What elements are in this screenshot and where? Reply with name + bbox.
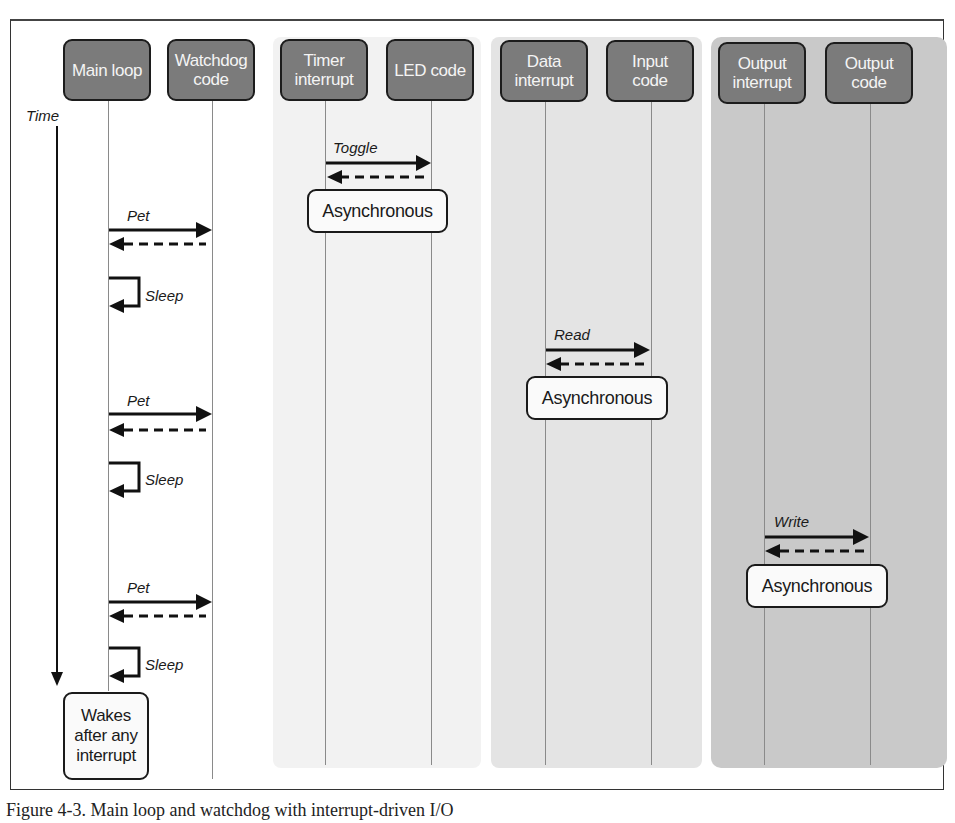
figure-caption: Figure 4-3. Main loop and watchdog with … <box>6 800 453 821</box>
sleep-self-arrow-icon <box>109 278 139 313</box>
pet-arrow-icon <box>109 594 212 610</box>
message-label-sleep: Sleep <box>145 656 183 673</box>
message-label-toggle: Toggle <box>333 139 378 156</box>
sleep-self-arrow-icon <box>109 648 139 683</box>
note-label-line3: interrupt <box>76 746 136 766</box>
note-label: Asynchronous <box>542 388 652 409</box>
write-return-arrow-icon <box>765 544 864 558</box>
pet-arrow-icon <box>109 222 212 238</box>
message-label-read: Read <box>554 326 590 343</box>
note-wakes-after-interrupt: Wakes after any interrupt <box>63 692 149 780</box>
note-label-line2: after any <box>74 726 137 746</box>
time-arrow-icon <box>51 126 63 686</box>
pet-return-arrow-icon <box>109 423 206 437</box>
pet-return-arrow-icon <box>109 609 206 623</box>
write-arrow-icon <box>765 529 869 545</box>
sleep-self-arrow-icon <box>109 463 139 498</box>
note-label: Asynchronous <box>322 201 432 222</box>
toggle-arrow-icon <box>326 155 431 171</box>
message-label-pet: Pet <box>127 207 150 224</box>
read-return-arrow-icon <box>546 357 645 371</box>
message-label-write: Write <box>774 513 809 530</box>
note-asynchronous-output: Asynchronous <box>746 564 888 608</box>
message-label-pet: Pet <box>127 392 150 409</box>
note-label: Asynchronous <box>762 576 872 597</box>
note-asynchronous-timer: Asynchronous <box>307 189 448 233</box>
toggle-return-arrow-icon <box>327 170 428 184</box>
note-asynchronous-data: Asynchronous <box>526 376 668 420</box>
message-label-pet: Pet <box>127 579 150 596</box>
message-label-sleep: Sleep <box>145 287 183 304</box>
message-label-sleep: Sleep <box>145 471 183 488</box>
pet-return-arrow-icon <box>109 237 206 251</box>
note-label-line1: Wakes <box>81 706 131 726</box>
pet-arrow-icon <box>109 406 212 422</box>
read-arrow-icon <box>546 342 650 358</box>
